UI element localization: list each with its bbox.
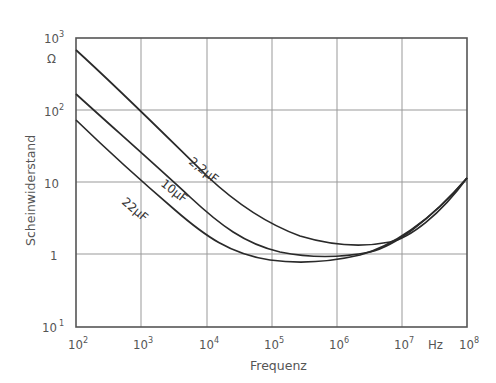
curve-label-22uF: 22µF (119, 195, 151, 225)
x-tick-1e6: 106 (329, 335, 349, 352)
grid (76, 38, 467, 327)
x-axis-title: Frequenz (250, 358, 307, 373)
curve-label-10uF: 10µF (158, 176, 190, 205)
y-tick-1: 1 (50, 248, 57, 263)
x-tick-1e3: 103 (133, 335, 153, 352)
x-tick-1e4: 104 (199, 335, 219, 352)
x-unit-hz: Hz (428, 337, 443, 352)
impedance-chart: 2,2µF 10µF 22µF 103 Ω 102 10 1 101 Schei… (0, 0, 496, 383)
y-tick-1000: 103 (44, 29, 64, 46)
y-unit-ohm: Ω (47, 51, 56, 66)
x-tick-1e8: 108 (459, 335, 479, 352)
x-tick-1e5: 105 (264, 335, 284, 352)
x-axis: 102 103 104 105 106 107 Hz 108 Frequenz (68, 335, 479, 373)
curve-label-2-2uF: 2,2µF (186, 154, 221, 186)
x-tick-1e7: 107 (394, 335, 414, 352)
y-axis: 103 Ω 102 10 1 101 Scheinwiderstand (23, 29, 64, 335)
y-tick-10: 10 (44, 176, 59, 191)
y-tick-0-1: 101 (42, 318, 64, 335)
y-tick-100: 102 (44, 102, 64, 119)
x-tick-1e2: 102 (68, 335, 88, 352)
y-axis-title: Scheinwiderstand (23, 135, 38, 246)
